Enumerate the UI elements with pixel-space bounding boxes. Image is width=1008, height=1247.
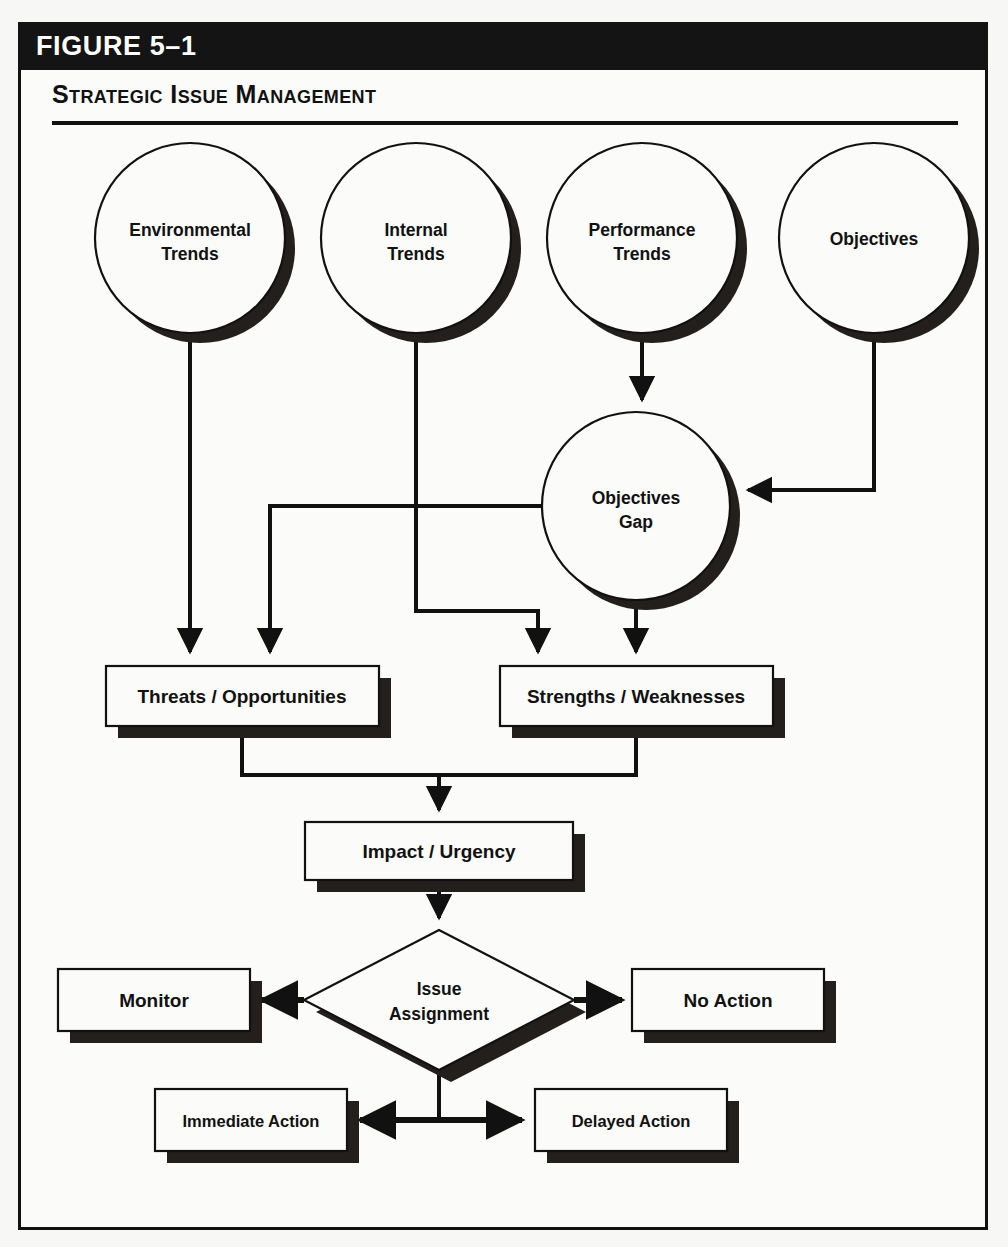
edge-internal-to-strengths bbox=[416, 333, 538, 652]
issue-assignment-label-line1: Issue bbox=[417, 979, 462, 999]
node-internal-trends[interactable]: Internal Trends bbox=[321, 143, 511, 333]
immediate-action-label: Immediate Action bbox=[183, 1112, 320, 1130]
edge-gap-to-threats bbox=[270, 506, 542, 652]
objectives-gap-label-line1: Objectives bbox=[592, 488, 681, 508]
node-monitor[interactable]: Monitor bbox=[58, 969, 250, 1031]
performance-trends-label-line1: Performance bbox=[589, 220, 696, 240]
environmental-trends-label-line2: Trends bbox=[161, 244, 219, 264]
impact-urgency-label: Impact / Urgency bbox=[362, 841, 516, 862]
node-delayed-action[interactable]: Delayed Action bbox=[535, 1089, 727, 1151]
issue-assignment-label-line2: Assignment bbox=[389, 1004, 489, 1024]
strengths-weaknesses-label: Strengths / Weaknesses bbox=[527, 686, 745, 707]
issue-assignment-diamond[interactable] bbox=[304, 930, 574, 1070]
node-performance-trends[interactable]: Performance Trends bbox=[547, 143, 737, 333]
node-strengths-weaknesses[interactable]: Strengths / Weaknesses bbox=[500, 666, 773, 726]
no-action-label: No Action bbox=[683, 990, 772, 1011]
node-objectives-gap[interactable]: Objectives Gap bbox=[542, 412, 730, 600]
delayed-action-label: Delayed Action bbox=[572, 1112, 691, 1130]
environmental-trends-label-line1: Environmental bbox=[129, 220, 251, 240]
figure-page: FIGURE 5–1 Strategic Issue Management bbox=[0, 0, 1008, 1247]
strategic-issue-management-flowchart: Environmental Trends Internal Trends Per… bbox=[0, 0, 1008, 1247]
node-no-action[interactable]: No Action bbox=[632, 969, 824, 1031]
objectives-gap-label-line2: Gap bbox=[619, 512, 653, 532]
node-environmental-trends[interactable]: Environmental Trends bbox=[95, 143, 285, 333]
threats-opportunities-label: Threats / Opportunities bbox=[137, 686, 346, 707]
objectives-label: Objectives bbox=[830, 229, 919, 249]
internal-trends-label-line2: Trends bbox=[387, 244, 445, 264]
node-threats-opportunities[interactable]: Threats / Opportunities bbox=[106, 666, 379, 726]
node-impact-urgency[interactable]: Impact / Urgency bbox=[305, 822, 573, 880]
edge-objectives-to-gap bbox=[748, 333, 874, 490]
performance-trends-label-line2: Trends bbox=[613, 244, 671, 264]
node-immediate-action[interactable]: Immediate Action bbox=[155, 1089, 347, 1151]
node-objectives[interactable]: Objectives bbox=[779, 143, 969, 333]
internal-trends-label-line1: Internal bbox=[384, 220, 447, 240]
node-issue-assignment[interactable]: Issue Assignment bbox=[304, 930, 574, 1070]
monitor-label: Monitor bbox=[119, 990, 189, 1011]
